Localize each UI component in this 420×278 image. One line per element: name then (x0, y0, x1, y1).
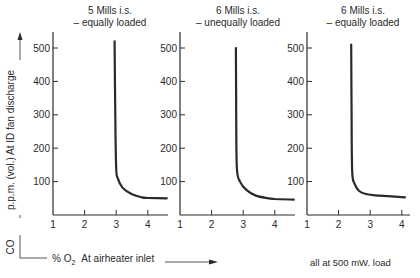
y-axis-arrow-icon (18, 32, 23, 40)
y-tick-label: 100 (160, 176, 177, 187)
co-curve (351, 45, 405, 198)
y-tick-label: 400 (160, 76, 177, 87)
x-axis-label-group: % O2At airheater inlet (52, 253, 218, 266)
y-tick-label: 200 (160, 143, 177, 154)
x-tick-label: 1 (177, 219, 183, 230)
panel-3: 6 Mills i.s.– equally loaded100200300400… (287, 5, 410, 230)
x-tick-label: 3 (113, 219, 119, 230)
x-tick-label: 1 (304, 219, 310, 230)
y-tick-label: 500 (287, 43, 304, 54)
x-tick-label: 2 (82, 219, 88, 230)
x-axis-label: % O2At airheater inlet (52, 253, 154, 266)
y-tick-label: 500 (33, 43, 50, 54)
panel-title: – unequally loaded (196, 17, 280, 28)
x-tick-label: 2 (336, 219, 342, 230)
x-tick-label: 3 (240, 219, 246, 230)
y-axis-co-label: CO (5, 239, 16, 254)
panel-title: 5 Mills i.s. (88, 5, 132, 16)
y-tick-label: 300 (287, 109, 304, 120)
x-tick-label: 4 (145, 219, 151, 230)
footnote: all at 500 mW. load (310, 257, 391, 268)
y-tick-label: 100 (287, 176, 304, 187)
panel-title: – equally loaded (74, 17, 147, 28)
y-tick-label: 200 (33, 143, 50, 154)
x-tick-label: 4 (272, 219, 278, 230)
x-axis-arrow-icon (209, 260, 218, 265)
y-tick-label: 400 (33, 76, 50, 87)
x-tick-label: 2 (209, 219, 215, 230)
x-tick-label: 3 (367, 219, 373, 230)
panel-title: 6 Mills i.s. (216, 5, 260, 16)
co-curve (236, 48, 294, 200)
x-tick-label: 4 (399, 219, 405, 230)
panel-2: 6 Mills i.s.– unequally loaded1002003004… (160, 5, 295, 230)
y-tick-label: 200 (287, 143, 304, 154)
x-tick-label: 1 (50, 219, 56, 230)
y-tick-label: 500 (160, 43, 177, 54)
panel-title: – equally loaded (327, 17, 400, 28)
y-tick-label: 400 (287, 76, 304, 87)
panel-1: 5 Mills i.s.– equally loaded100200300400… (33, 5, 168, 230)
y-tick-label: 300 (160, 109, 177, 120)
y-tick-label: 100 (33, 176, 50, 187)
y-tick-label: 300 (33, 109, 50, 120)
chart-figure: 5 Mills i.s.– equally loaded100200300400… (0, 0, 420, 278)
y-axis-label: p.p.m. (vol.) At ID fan discharge (5, 70, 16, 210)
co-curve (115, 41, 167, 198)
panel-title: 6 Mills i.s. (341, 5, 385, 16)
